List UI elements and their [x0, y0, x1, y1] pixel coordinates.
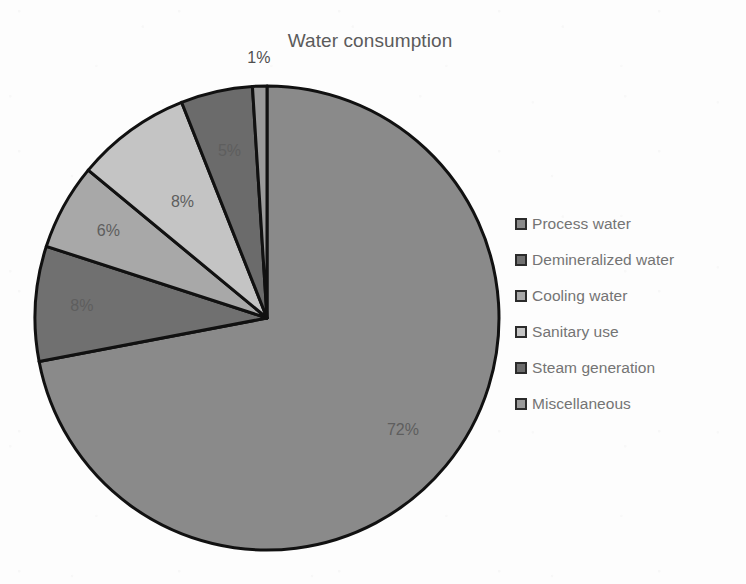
legend-item[interactable]: Sanitary use	[515, 314, 674, 350]
legend-swatch-icon	[515, 218, 527, 230]
legend-item[interactable]: Process water	[515, 206, 674, 242]
pie-data-label: 5%	[218, 142, 241, 159]
legend-swatch-icon	[515, 398, 527, 410]
legend-swatch-icon	[515, 254, 527, 266]
pie-slice-group	[35, 86, 499, 550]
legend-item-label: Cooling water	[532, 287, 627, 305]
legend-item-label: Miscellaneous	[532, 395, 631, 413]
legend-item[interactable]: Cooling water	[515, 278, 674, 314]
legend-swatch-icon	[515, 362, 527, 374]
pie-data-label: 8%	[171, 193, 194, 210]
pie-data-label: 8%	[70, 297, 93, 314]
pie-data-label: 6%	[97, 222, 120, 239]
legend-item-label: Process water	[532, 215, 631, 233]
legend-swatch-icon	[515, 326, 527, 338]
legend-swatch-icon	[515, 290, 527, 302]
pie-chart-figure: Water consumption 72%8%6%8%5%1% Process …	[0, 0, 746, 584]
legend-item-label: Steam generation	[532, 359, 655, 377]
pie-data-label: 1%	[247, 49, 270, 66]
legend-item-label: Demineralized water	[532, 251, 674, 269]
legend-item[interactable]: Demineralized water	[515, 242, 674, 278]
pie-data-label: 72%	[387, 421, 419, 438]
legend-item-label: Sanitary use	[532, 323, 619, 341]
legend-item[interactable]: Steam generation	[515, 350, 674, 386]
chart-legend: Process waterDemineralized waterCooling …	[515, 206, 674, 422]
legend-item[interactable]: Miscellaneous	[515, 386, 674, 422]
